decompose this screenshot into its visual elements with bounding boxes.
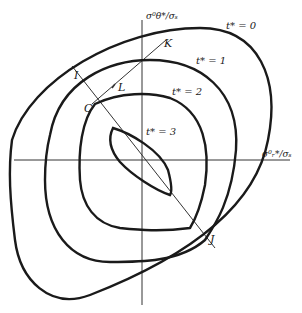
- curve-t0: [10, 28, 271, 299]
- label-point-L: L: [118, 82, 125, 93]
- label-t2: t* = 2: [172, 87, 202, 97]
- label-point-C: C: [84, 103, 92, 114]
- label-point-J: J: [210, 234, 214, 245]
- label-t1: t* = 1: [196, 56, 226, 66]
- label-t3: t* = 3: [146, 127, 176, 137]
- label-t0: t* = 0: [226, 21, 256, 31]
- curve-t3: [110, 128, 171, 195]
- label-point-I: I: [74, 70, 78, 81]
- label-y-axis: σ⁰θ*/σₛ: [146, 12, 178, 21]
- label-point-K: K: [164, 38, 172, 49]
- yield-surface-diagram: [0, 0, 302, 313]
- curve-t2: [80, 94, 207, 230]
- label-x-axis: σ⁰ᵣ*/σₛ: [262, 150, 292, 159]
